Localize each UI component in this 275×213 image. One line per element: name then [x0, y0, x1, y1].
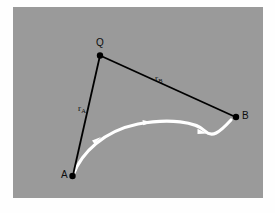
vector-label-rB-subscript: B [158, 77, 162, 84]
point-label-A: A [61, 170, 68, 180]
vector-line-rB [100, 56, 236, 118]
figure-vector-graphics [0, 0, 275, 213]
point-label-B: B [242, 111, 249, 121]
point-label-Q: Q [96, 38, 104, 48]
trajectory-curve [73, 120, 231, 175]
point-marker-A [69, 173, 75, 179]
point-marker-Q [97, 52, 103, 58]
vector-label-rA: rA [78, 104, 86, 113]
vector-label-rB: rB [155, 74, 162, 83]
figure-page: Q A B rA rB [0, 0, 275, 213]
vector-label-rA-subscript: A [81, 107, 86, 114]
vector-line-rA [73, 56, 100, 176]
point-marker-B [233, 114, 239, 120]
